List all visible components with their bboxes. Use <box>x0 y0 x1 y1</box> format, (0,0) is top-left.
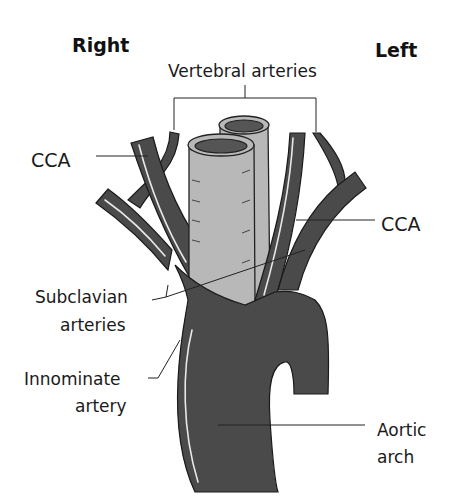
label-subclavian-1: Subclavian <box>35 287 128 307</box>
heading-left-side: Left <box>375 39 417 61</box>
label-subclavian-2: arteries <box>60 315 126 335</box>
heading-right-side: Right <box>72 34 129 56</box>
label-aortic-2: arch <box>377 447 414 467</box>
aortic-arch-diagram: Right Left Vertebral arteries <box>0 0 464 504</box>
label-innominate-2: artery <box>75 396 127 416</box>
label-cca-left: CCA <box>381 213 421 235</box>
label-cca-right: CCA <box>31 149 71 171</box>
label-aortic-1: Aortic <box>377 420 426 440</box>
label-innominate-1: Innominate <box>24 369 121 389</box>
label-vertebral-arteries: Vertebral arteries <box>168 61 317 81</box>
